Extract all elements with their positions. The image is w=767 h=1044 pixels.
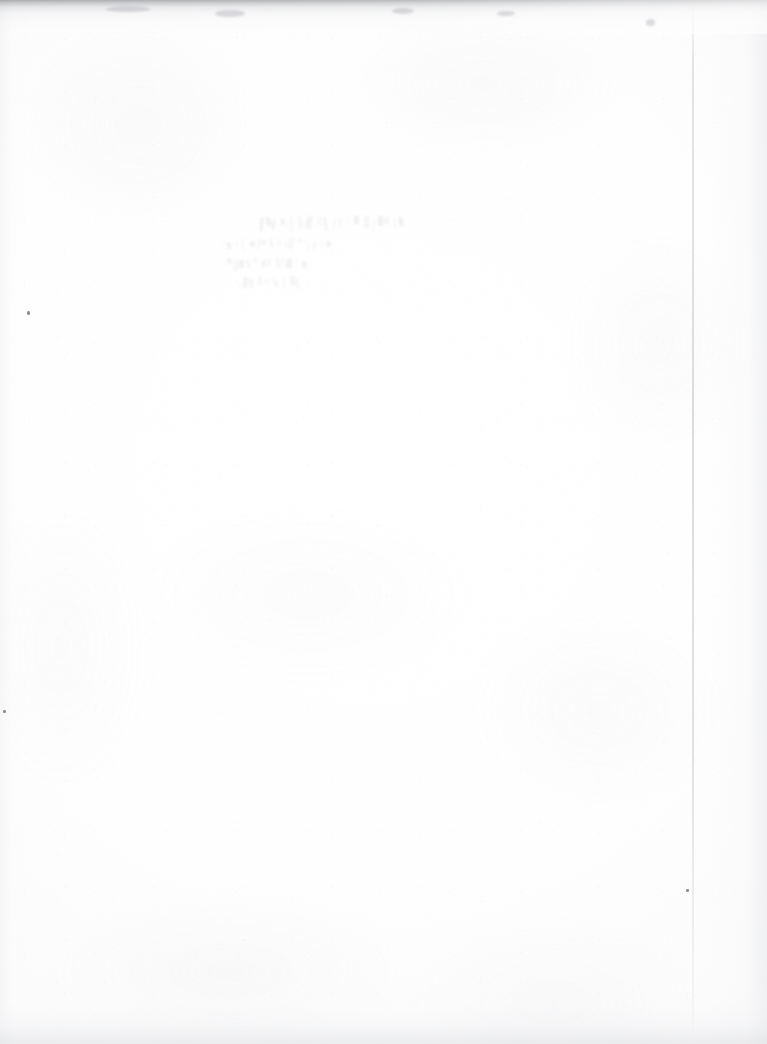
paper-soft-mark <box>497 11 515 16</box>
paper-grain-texture <box>0 0 767 1044</box>
left-edge-shading <box>0 0 26 1044</box>
right-edge-shading <box>709 0 767 1044</box>
paper-speck <box>686 889 689 892</box>
scanned-page <box>0 0 767 1044</box>
paper-soft-mark <box>646 19 655 26</box>
paper-speck <box>3 710 6 713</box>
paper-soft-mark <box>215 10 245 17</box>
paper-speck <box>27 311 30 315</box>
scanner-top-shadow <box>0 0 767 34</box>
paper-soft-mark <box>392 8 414 14</box>
bottom-edge-shading <box>0 974 767 1044</box>
paper-soft-mark <box>106 6 150 12</box>
page-crease-line <box>692 0 694 1044</box>
